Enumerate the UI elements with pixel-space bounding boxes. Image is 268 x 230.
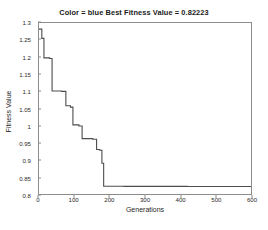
x-tick-mark xyxy=(73,195,74,198)
y-tick-label: 1.05 xyxy=(19,105,31,112)
x-tick-mark xyxy=(145,195,146,198)
y-tick-mark xyxy=(38,73,41,74)
figure-container: Color = blue Best Fitness Value = 0.8222… xyxy=(0,0,268,230)
y-tick-mark xyxy=(38,56,41,57)
y-tick-mark xyxy=(38,177,41,178)
y-tick-label: 1.2 xyxy=(23,53,31,60)
plot-area xyxy=(38,22,252,195)
x-tick-mark xyxy=(38,195,39,198)
y-tick-label: 1.1 xyxy=(23,88,31,95)
chart-title: Color = blue Best Fitness Value = 0.8222… xyxy=(0,8,268,17)
y-axis-label: Fitness Value xyxy=(5,77,12,147)
x-tick-mark xyxy=(109,195,110,198)
x-tick-mark xyxy=(216,195,217,198)
y-tick-label: 0.85 xyxy=(19,174,31,181)
y-tick-mark xyxy=(38,160,41,161)
y-tick-label: 1.3 xyxy=(23,19,31,26)
y-tick-label: 1.25 xyxy=(19,36,31,43)
y-tick-label: 0.8 xyxy=(23,192,31,199)
y-tick-label: 1 xyxy=(28,122,31,129)
x-tick-mark xyxy=(252,195,253,198)
y-tick-mark xyxy=(38,108,41,109)
y-tick-label: 0.9 xyxy=(23,157,31,164)
x-tick-mark xyxy=(180,195,181,198)
y-tick-mark xyxy=(38,125,41,126)
y-tick-mark xyxy=(38,22,41,23)
y-tick-label: 0.95 xyxy=(19,140,31,147)
y-tick-label: 1.15 xyxy=(19,70,31,77)
y-tick-mark xyxy=(38,143,41,144)
y-tick-mark xyxy=(38,91,41,92)
fitness-line-chart xyxy=(39,23,251,194)
x-axis-label: Generations xyxy=(38,206,252,213)
y-tick-mark xyxy=(38,39,41,40)
best-fitness-line xyxy=(39,29,251,186)
